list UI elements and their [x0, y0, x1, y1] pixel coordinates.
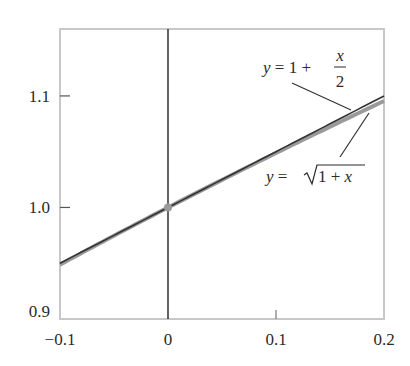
fraction-denominator: 2 [336, 72, 345, 91]
x-tick-label: 0.1 [265, 330, 286, 349]
points [164, 203, 172, 211]
tangency-point [164, 203, 172, 211]
fraction-numerator: x [335, 46, 344, 65]
radicand-var: x [344, 167, 353, 186]
x-tick-label: 0 [164, 330, 173, 349]
label-lhs: y [264, 167, 274, 186]
x-tick-label: 0.2 [373, 330, 394, 349]
annotation-tangent-line: y = 1 + x 2 [261, 46, 351, 110]
y-tick-label: 1.0 [29, 198, 50, 217]
y-tick-label: 1.1 [29, 87, 50, 106]
y-tick-label: 0.9 [29, 302, 50, 321]
label-lhs: y [261, 58, 271, 77]
label-tangent-line: y = 1 + [261, 58, 311, 77]
label-eq: = 1 + [271, 58, 311, 77]
y-ticks: 0.91.01.1 [29, 87, 70, 321]
radicand: 1 + x [318, 167, 353, 186]
label-sqrt-curve: y = [264, 167, 287, 186]
label-eq: = [274, 167, 288, 186]
x-tick-label: −0.1 [45, 330, 76, 349]
chart: −0.100.10.2 0.91.01.1 y = 1 + x 2 y = 1 … [0, 0, 410, 366]
radicand-const: 1 + [318, 167, 345, 186]
x-ticks: −0.100.10.2 [45, 310, 395, 349]
